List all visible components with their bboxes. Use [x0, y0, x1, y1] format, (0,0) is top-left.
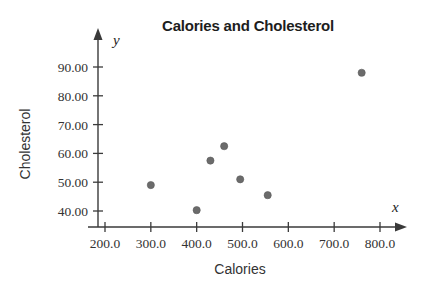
- y-axis-tick-label: 70.00: [58, 118, 89, 133]
- y-axis-tick-label: 80.00: [58, 89, 89, 104]
- data-point: [237, 176, 244, 183]
- x-axis-tick-label: 800.0: [365, 236, 396, 251]
- y-axis-variable-label: y: [111, 32, 120, 48]
- x-axis-tick-label: 200.0: [90, 236, 121, 251]
- y-axis-title: Cholesterol: [17, 109, 33, 180]
- chart-canvas: Calories and Cholesterol y x 40.0050.006…: [0, 0, 422, 295]
- x-axis-tick-label: 700.0: [319, 236, 350, 251]
- data-point: [221, 143, 228, 150]
- x-axis-tick-label: 500.0: [227, 236, 258, 251]
- x-axis-tick-label: 600.0: [273, 236, 304, 251]
- y-axis-tick-label: 90.00: [58, 60, 89, 75]
- x-axis-title: Calories: [214, 261, 265, 277]
- y-axis-tick-label: 50.00: [58, 175, 89, 190]
- data-point: [358, 69, 365, 76]
- y-axis-tick-label: 40.00: [58, 204, 89, 219]
- x-axis-tick-label: 400.0: [181, 236, 212, 251]
- x-axis-tick-label: 300.0: [136, 236, 167, 251]
- scatter-plot-figure: Calories and Cholesterol y x 40.0050.006…: [0, 0, 422, 295]
- data-point: [207, 157, 214, 164]
- x-axis-variable-label: x: [391, 199, 399, 215]
- data-point: [193, 207, 200, 214]
- y-axis-tick-label: 60.00: [58, 146, 89, 161]
- chart-title: Calories and Cholesterol: [162, 17, 334, 34]
- data-point: [147, 181, 154, 188]
- data-point: [264, 192, 271, 199]
